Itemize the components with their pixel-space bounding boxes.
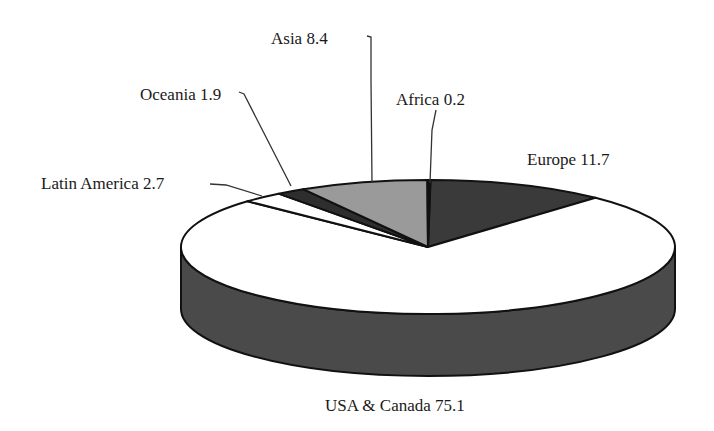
label-latin-america: Latin America 2.7 — [41, 175, 164, 192]
leader-line — [367, 36, 372, 183]
label-europe: Europe 11.7 — [527, 151, 609, 168]
label-africa: Africa 0.2 — [396, 91, 465, 108]
pie-chart-3d — [0, 0, 714, 431]
leader-line — [210, 184, 262, 196]
leader-line — [239, 92, 291, 186]
leader-line — [430, 110, 436, 183]
leader-lines — [210, 36, 436, 196]
label-asia: Asia 8.4 — [271, 30, 328, 47]
label-usa-canada: USA & Canada 75.1 — [325, 397, 465, 414]
pie-top-slices — [181, 180, 675, 314]
label-oceania: Oceania 1.9 — [140, 86, 221, 103]
